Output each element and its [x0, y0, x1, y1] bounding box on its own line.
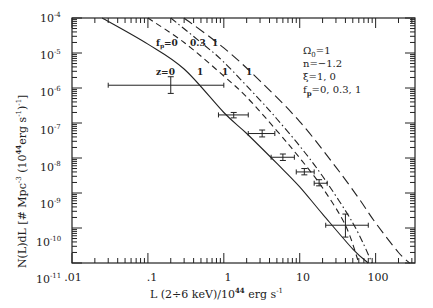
y-axis-ticks: [72, 18, 415, 263]
y-tick-label: 10-10: [36, 235, 61, 249]
curve-label-z0: z=0: [156, 67, 175, 77]
x-tick-label: 1: [225, 271, 232, 284]
curve-label-z1: 1: [222, 67, 228, 77]
y-tick-label: 10-5: [40, 48, 61, 62]
y-tick-labels: 10-4 10-5 10-6 10-7 10-8 10-9 10-10 10-1…: [36, 11, 61, 286]
model-curve: [184, 18, 410, 263]
curve-label-fp1: 1: [212, 38, 218, 48]
x-tick-label: 10: [296, 271, 310, 284]
y-tick-label: 10-7: [40, 123, 61, 137]
legend-block: Ω0=1 n=−1.2 ξ=1, 0 fp=0, 0.3, 1: [303, 45, 361, 98]
curve-label-z1: 1: [197, 67, 203, 77]
curve-labels: fp=0 0.3 1 z=0 1 1 1: [156, 38, 252, 77]
data-point: [296, 169, 314, 175]
y-tick-label: 10-9: [40, 197, 61, 211]
data-point: [271, 154, 294, 160]
legend-fp: fp=0, 0.3, 1: [303, 84, 361, 98]
curve-label-z1: 1: [246, 67, 252, 77]
y-tick-label: 10-6: [40, 85, 61, 99]
x-tick-label: 100: [368, 271, 389, 284]
svg-text:10-11: 10-11: [36, 272, 61, 286]
legend-omega: Ω0=1: [303, 45, 331, 59]
data-points: [108, 77, 368, 237]
x-axis-ticks: [72, 18, 412, 263]
x-tick-labels: .01 .1 1 10 100: [64, 271, 388, 284]
svg-text:10-7: 10-7: [40, 123, 61, 137]
y-axis-title: N(L)dL [# Mpc-3 (1044erg s-1)-1]: [14, 95, 29, 268]
svg-text:10-5: 10-5: [40, 48, 61, 62]
curve-label-fp0: fp=0: [156, 38, 178, 50]
luminosity-function-chart: .01 .1 1 10 100 10-4 10-5 10-6 10-7 10-8…: [0, 0, 433, 308]
x-tick-label: .01: [64, 271, 82, 284]
data-point: [108, 77, 224, 94]
svg-text:10-4: 10-4: [40, 11, 61, 25]
svg-text:10-6: 10-6: [40, 85, 61, 99]
svg-text:10-10: 10-10: [36, 235, 61, 249]
data-point: [248, 130, 275, 137]
y-tick-label: 10-11: [36, 272, 61, 286]
x-axis-title: L (2÷6 keV)/1044 erg s-1: [150, 286, 283, 301]
svg-text:10-8: 10-8: [40, 160, 61, 174]
model-curve: [171, 18, 372, 263]
legend-n: n=−1.2: [303, 58, 342, 69]
curve-label-fp03: 0.3: [190, 38, 206, 48]
svg-text:10-9: 10-9: [40, 197, 61, 211]
plot-frame: [72, 18, 415, 263]
model-curves: [102, 18, 409, 263]
data-point: [326, 214, 369, 237]
x-tick-label: .1: [147, 271, 158, 284]
y-tick-label: 10-4: [40, 11, 61, 25]
data-point: [218, 112, 248, 117]
y-tick-label: 10-8: [40, 160, 61, 174]
legend-xi: ξ=1, 0: [303, 71, 336, 82]
